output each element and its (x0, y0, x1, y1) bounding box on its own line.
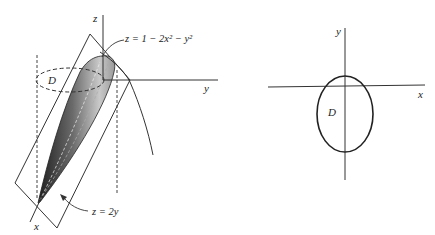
region-d-label-3d: D (47, 74, 56, 86)
diagram-canvas: z y x D z = 1 − 2x² − y² z = 2y y x D (0, 0, 435, 235)
x-axis-label: x (33, 220, 39, 232)
z-axis-label: z (92, 12, 98, 24)
surface-equation-label: z = 1 − 2x² − y² (124, 33, 193, 44)
right-y-axis-label: y (335, 25, 341, 37)
plane-leader (64, 198, 88, 211)
right-x-axis (268, 85, 425, 87)
x-axis (30, 196, 42, 222)
right-region-d-label: D (327, 106, 336, 118)
right-2d-figure: y x D (268, 25, 425, 180)
y-axis-label: y (203, 82, 209, 94)
right-x-axis-label: x (417, 88, 423, 100)
surface-leader (102, 40, 124, 57)
left-3d-figure: z y x D z = 1 − 2x² − y² z = 2y (15, 12, 218, 232)
plane-equation-label: z = 2y (91, 206, 119, 217)
